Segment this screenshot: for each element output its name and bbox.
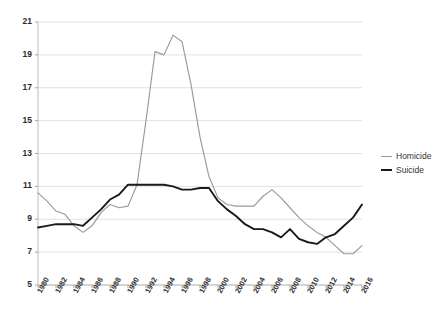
legend-label-homicide: Homicide (396, 151, 431, 161)
legend-swatch-homicide-icon (381, 156, 392, 157)
y-tick-label: 17 (10, 83, 32, 92)
series-lines (38, 35, 362, 254)
y-tick-label: 9 (10, 214, 32, 223)
y-tick-label: 5 (10, 280, 32, 289)
series-line-suicide (38, 185, 362, 244)
axis-lines (35, 22, 362, 288)
chart-legend: Homicide Suicide (381, 149, 431, 177)
y-tick-label: 15 (10, 116, 32, 125)
y-tick-label: 21 (10, 17, 32, 26)
y-tick-label: 11 (10, 181, 32, 190)
gridlines (38, 22, 362, 285)
series-line-homicide (38, 35, 362, 254)
y-tick-label: 13 (10, 149, 32, 158)
legend-item-suicide[interactable]: Suicide (381, 163, 431, 177)
legend-item-homicide[interactable]: Homicide (381, 149, 431, 163)
y-tick-label: 19 (10, 50, 32, 59)
legend-label-suicide: Suicide (396, 165, 424, 175)
line-chart: 579111315171921 198019821984198619881990… (0, 0, 444, 327)
legend-swatch-suicide-icon (381, 169, 392, 171)
y-tick-label: 7 (10, 247, 32, 256)
